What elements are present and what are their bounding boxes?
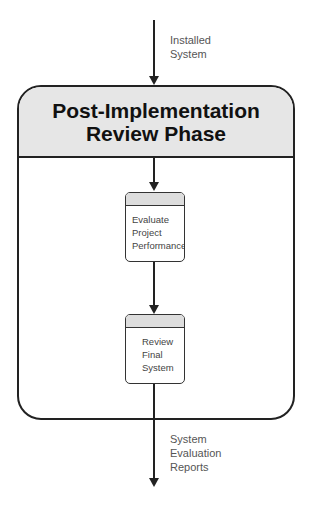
- output-flow-line: [153, 384, 155, 482]
- process-label-line: System: [142, 361, 184, 374]
- process-review-final-system: Review Final System: [125, 314, 185, 384]
- arrowhead-icon: [149, 305, 159, 314]
- process-label-line: Review: [142, 335, 184, 348]
- process-label-line: Evaluate: [132, 213, 184, 226]
- input-label-line-2: System: [170, 47, 211, 61]
- process-tab: [126, 315, 184, 328]
- arrowhead-icon: [149, 182, 159, 191]
- process-tab: [126, 193, 184, 206]
- flow-line-to-review: [153, 262, 155, 307]
- phase-title-line-1: Post-Implementation: [52, 99, 260, 122]
- phase-header: Post-Implementation Review Phase: [19, 87, 293, 158]
- phase-title-line-2: Review Phase: [52, 122, 260, 145]
- phase-title: Post-Implementation Review Phase: [52, 99, 260, 145]
- output-label-line-3: Reports: [170, 460, 221, 474]
- input-flow-label: Installed System: [170, 33, 211, 61]
- process-evaluate-project-performance: Evaluate Project Performance: [125, 192, 185, 262]
- process-label-line: Performance: [132, 239, 184, 252]
- process-label-line: Project: [132, 226, 184, 239]
- input-label-line-1: Installed: [170, 33, 211, 47]
- output-arrowhead-icon: [149, 478, 159, 487]
- input-arrowhead-icon: [149, 76, 159, 85]
- output-flow-label: System Evaluation Reports: [170, 432, 221, 474]
- process-label: Review Final System: [126, 328, 184, 374]
- output-label-line-1: System: [170, 432, 221, 446]
- output-label-line-2: Evaluation: [170, 446, 221, 460]
- input-flow-line: [153, 20, 155, 78]
- flow-line-to-evaluate: [153, 158, 155, 183]
- process-label-line: Final: [142, 348, 184, 361]
- process-label: Evaluate Project Performance: [126, 206, 184, 252]
